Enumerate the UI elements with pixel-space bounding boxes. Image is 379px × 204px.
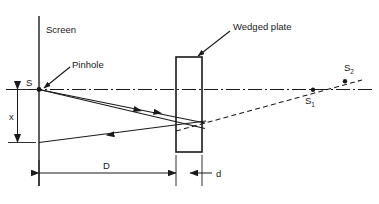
- ray-incident-upper: [39, 90, 205, 124]
- pinhole-leader-line: [44, 67, 70, 88]
- dim-d-label: d: [216, 168, 221, 179]
- ray-reflected-to-screen: [39, 121, 206, 143]
- ray-incident-lower: [39, 90, 205, 129]
- pinhole-label: Pinhole: [72, 59, 104, 70]
- s2-subscript: 2: [350, 68, 354, 75]
- source-label: S: [26, 77, 32, 88]
- optics-ray-diagram-figure: Screen Pinhole Wedged plate S S1 S2 x D …: [0, 0, 379, 204]
- screen-label: Screen: [46, 24, 76, 35]
- wedged-plate: [176, 57, 202, 152]
- wedged-plate-label: Wedged plate: [233, 21, 291, 32]
- pinhole-point: [37, 87, 42, 92]
- diagram-canvas: Screen Pinhole Wedged plate S S1 S2 x D …: [0, 0, 379, 204]
- wedged-plate-leader-line: [198, 31, 230, 56]
- image-point-s1: [311, 88, 315, 92]
- s1-subscript: 1: [311, 101, 315, 108]
- virtual-ray-dashed: [176, 80, 362, 131]
- dim-D-label: D: [103, 160, 110, 171]
- image-point-s1-label: S1: [305, 95, 315, 108]
- dim-x-label: x: [9, 111, 14, 122]
- image-point-s2-label: S2: [344, 62, 354, 75]
- image-point-s2: [343, 79, 347, 83]
